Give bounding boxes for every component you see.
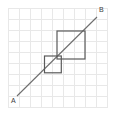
figure-canvas: A B: [0, 0, 117, 117]
point-label-a: A: [11, 97, 16, 104]
point-label-b: B: [99, 6, 104, 13]
geometry-figure: A B: [0, 0, 117, 117]
grid-vertical-lines: [9, 8, 108, 108]
grid-horizontal-lines: [8, 9, 108, 108]
large-square: [57, 31, 85, 59]
